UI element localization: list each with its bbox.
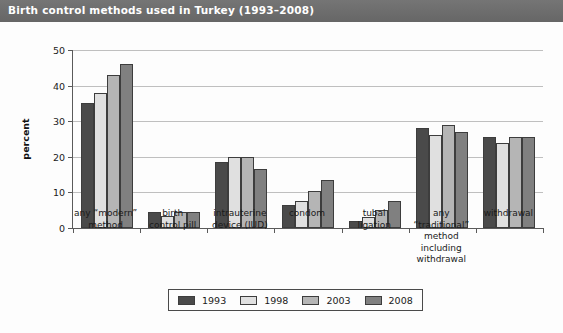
legend-item[interactable]: 1993 [178, 295, 226, 306]
bar-group [409, 50, 476, 228]
y-axis-title: percent [18, 50, 32, 228]
legend-swatch [302, 296, 319, 305]
bar-group [73, 50, 140, 228]
x-tick-mark [543, 228, 544, 233]
chart-legend: 1993199820032008 [168, 289, 423, 311]
y-tick-label: 40 [53, 80, 65, 91]
plot-area: 01020304050 [72, 50, 543, 229]
x-axis-label-line: withdrawal [400, 254, 483, 266]
bar-group [476, 50, 543, 228]
x-axis-label-line: “traditional” [400, 220, 483, 232]
y-tick-label: 10 [53, 187, 65, 198]
legend-item[interactable]: 2008 [365, 295, 413, 306]
legend-item[interactable]: 1998 [240, 295, 288, 306]
bar [107, 75, 120, 228]
legend-item[interactable]: 2003 [302, 295, 350, 306]
chart-title-bar: Birth control methods used in Turkey (19… [0, 0, 563, 22]
y-tick-label: 50 [53, 45, 65, 56]
x-axis-label-line: device (IUD) [198, 220, 281, 232]
legend-label: 2008 [389, 295, 413, 306]
x-axis-label-line: method [400, 231, 483, 243]
bar [120, 64, 133, 228]
bar-group [207, 50, 274, 228]
legend-label: 1993 [202, 295, 226, 306]
bar-group [140, 50, 207, 228]
y-tick-label: 20 [53, 151, 65, 162]
plot-wrapper: percent 01020304050 any “modern”methodbi… [0, 22, 563, 333]
bar-group [342, 50, 409, 228]
x-axis-label-line: withdrawal [467, 208, 550, 220]
y-tick-label: 30 [53, 116, 65, 127]
bar-group [274, 50, 341, 228]
legend-swatch [240, 296, 257, 305]
legend-label: 2003 [326, 295, 350, 306]
legend-swatch [178, 296, 195, 305]
chart-title: Birth control methods used in Turkey (19… [8, 4, 314, 16]
legend-label: 1998 [264, 295, 288, 306]
x-axis-label: withdrawal [467, 208, 550, 220]
legend-swatch [365, 296, 382, 305]
x-axis-label-line: including [400, 243, 483, 255]
chart-figure: Birth control methods used in Turkey (19… [0, 0, 563, 333]
